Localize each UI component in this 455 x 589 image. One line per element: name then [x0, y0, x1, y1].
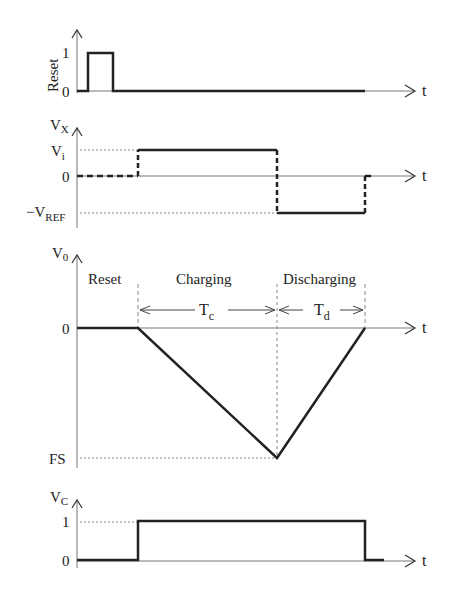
tick-0: 0: [62, 553, 70, 569]
vx-panel: t VX Vi 0 −VREF: [26, 117, 427, 228]
timing-diagram: t 1 0 Reset t VX Vi 0 −VREF: [0, 0, 455, 589]
tick-0: 0: [62, 169, 70, 185]
tick-1: 1: [62, 45, 70, 61]
region-reset-label: Reset: [88, 271, 122, 287]
tick-0: 0: [62, 84, 70, 100]
reset-waveform: [77, 53, 365, 91]
vref-tick: −VREF: [26, 204, 65, 223]
vi-tick: Vi: [51, 143, 65, 162]
fs-tick: FS: [49, 451, 66, 467]
tick-0: 0: [62, 321, 70, 337]
reset-ylabel: Reset: [45, 58, 61, 92]
reset-panel: t 1 0 Reset: [45, 30, 427, 100]
t-label: t: [422, 82, 427, 99]
td-label: Td: [314, 301, 330, 323]
t-label: t: [422, 167, 427, 184]
v0-ylabel: V0: [52, 245, 69, 263]
region-discharging-label: Discharging: [283, 271, 357, 287]
vc-panel: t VC 1 0: [50, 489, 427, 569]
tick-1: 1: [62, 514, 70, 530]
t-label: t: [422, 319, 427, 336]
tc-label: Tc: [199, 301, 214, 323]
v0-panel: Tc Td Reset Charging Discharging t V0 0 …: [49, 245, 427, 468]
v0-waveform: [77, 328, 365, 458]
t-label: t: [422, 552, 427, 569]
vx-ylabel: VX: [50, 117, 69, 135]
vc-ylabel: VC: [50, 489, 68, 507]
vc-waveform: [77, 521, 384, 560]
region-charging-label: Charging: [176, 271, 232, 287]
